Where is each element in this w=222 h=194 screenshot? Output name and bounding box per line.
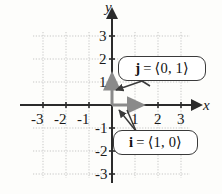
x-tick-label-3: 3 (177, 112, 185, 127)
callout-i-equals: = (133, 134, 147, 151)
callout-j-value: ⟨0, 1⟩ (155, 60, 189, 77)
y-tick-label-neg3: -3 (95, 167, 108, 182)
coordinate-plane (0, 0, 222, 194)
y-tick-label-2: 2 (99, 52, 107, 67)
x-tick-label-2: 2 (154, 112, 162, 127)
x-tick-label-neg1: -1 (77, 112, 90, 127)
callout-i-value: ⟨1, 0⟩ (148, 134, 182, 151)
callout-j-equals: = (140, 60, 154, 77)
y-tick-label-1: 1 (99, 75, 107, 90)
unit-vectors-figure: -3 -2 -1 1 2 3 3 2 1 -1 -2 -3 x y j = ⟨0… (0, 0, 222, 194)
x-tick-label-1: 1 (131, 112, 139, 127)
y-axis-label: y (105, 0, 112, 15)
y-tick-label-neg2: -2 (95, 144, 108, 159)
x-tick-label-neg3: -3 (31, 112, 44, 127)
callout-i: i = ⟨1, 0⟩ (113, 130, 198, 155)
y-tick-label-3: 3 (99, 29, 107, 44)
y-tick-label-neg1: -1 (95, 121, 108, 136)
x-tick-label-neg2: -2 (54, 112, 67, 127)
callout-j: j = ⟨0, 1⟩ (118, 56, 206, 81)
x-axis-label: x (203, 98, 210, 113)
